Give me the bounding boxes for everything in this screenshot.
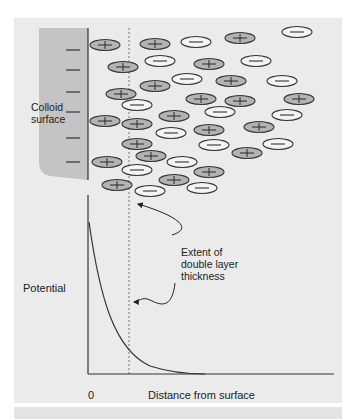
positive-ion-icon [284,94,314,105]
negative-ion-icon [122,100,152,111]
annotation-line2: double layer [181,258,238,270]
colloid-label: Colloid surface [31,101,65,125]
positive-ion-icon [106,89,136,100]
negative-ion-icon [122,165,152,176]
negative-ion-icon [241,56,271,67]
arrow-to-graph-icon [134,283,175,304]
positive-ion-icon [225,33,255,44]
positive-ion-icon [159,175,189,186]
negative-ion-icon [145,56,175,67]
positive-ion-icon [159,111,189,122]
negative-ion-icon [181,37,211,48]
colloid-label-line2: surface [31,113,65,125]
annotation-line1: Extent of [181,246,238,258]
positive-ion-icon [122,139,152,150]
double-layer-annotation: Extent of double layer thickness [181,246,238,282]
positive-ion-icon [232,148,262,159]
negative-ion-icon [172,74,202,85]
positive-ion-icon [136,151,166,162]
x-axis-label: Distance from surface [148,389,255,401]
double-layer-diagram [0,0,359,419]
arrow-to-top-icon [138,204,182,235]
negative-ion-icon [263,139,293,150]
positive-ion-icon [92,157,122,168]
negative-ion-icon [135,186,165,197]
positive-ion-icon [102,180,132,191]
potential-curve [89,222,205,374]
negative-ion-icon [272,110,302,121]
positive-ion-icon [244,122,274,133]
positive-ion-icon [140,39,170,50]
positive-ion-icon [90,116,120,127]
positive-ion-icon [122,119,152,130]
negative-ion-icon [267,76,297,87]
positive-ion-icon [194,59,224,70]
annotation-line3: thickness [181,270,238,282]
positive-ion-icon [140,81,170,92]
negative-ion-icon [187,183,217,194]
positive-ion-icon [194,167,224,178]
colloid-label-line1: Colloid [31,101,65,113]
positive-ion-icon [225,96,255,107]
ion-cloud [90,27,314,197]
negative-ion-icon [205,107,235,118]
y-axis-label: Potential [23,282,66,294]
positive-ion-icon [108,62,138,73]
negative-ion-icon [282,27,312,38]
positive-ion-icon [194,125,224,136]
x-axis-origin-label: 0 [88,389,94,401]
negative-ion-icon [156,128,186,139]
negative-ion-icon [199,140,229,151]
positive-ion-icon [90,40,120,51]
positive-ion-icon [216,76,246,87]
negative-ion-icon [167,157,197,168]
positive-ion-icon [186,94,216,105]
